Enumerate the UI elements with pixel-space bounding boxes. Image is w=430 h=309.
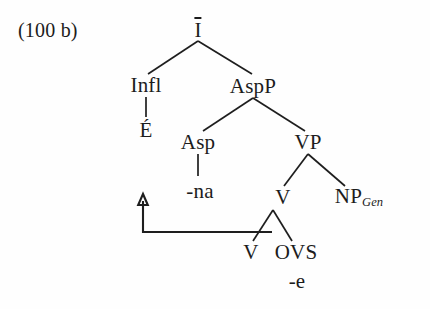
edge-v-to-v	[253, 210, 273, 241]
tree-edges-layer	[0, 0, 430, 309]
node-asp: Asp	[181, 132, 215, 153]
movement-arrow-head	[138, 194, 148, 205]
example-number-label: (100 b)	[18, 20, 78, 40]
node-i-bar: I	[194, 17, 201, 41]
node-np-label: NP	[335, 184, 362, 208]
edge-root-to-aspp	[198, 41, 252, 74]
edge-aspp-to-asp	[203, 98, 253, 131]
node-i-bar-label: I	[194, 17, 201, 41]
edge-v-to-ovs	[273, 210, 292, 241]
movement-arrow-line	[143, 201, 272, 232]
node-np-gen: NPGen	[335, 186, 383, 208]
node-ovs-suffix-e: -e	[289, 271, 306, 292]
node-infl-lexical-e: É	[139, 120, 152, 141]
syntax-tree-figure: (100 b) I Infl AspP É Asp VP -na V NPGen…	[0, 0, 430, 309]
node-v-lower: V	[243, 242, 258, 263]
node-asp-lexical-na: -na	[186, 181, 213, 202]
node-v-upper: V	[275, 187, 290, 208]
edge-vp-to-v	[284, 154, 308, 186]
node-infl: Infl	[130, 75, 161, 96]
edge-root-to-infl	[148, 41, 198, 74]
edge-vp-to-np	[308, 154, 345, 186]
node-ovs: OVS	[275, 242, 318, 263]
node-vp: VP	[294, 132, 321, 153]
node-aspp: AspP	[230, 76, 276, 97]
node-np-subscript: Gen	[362, 195, 383, 209]
edge-aspp-to-vp	[253, 98, 305, 131]
